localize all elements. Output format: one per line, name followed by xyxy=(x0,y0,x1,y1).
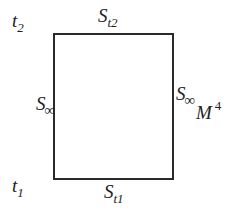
boundary-label-bottom-base: S xyxy=(104,181,114,202)
time-label-t1-subscript: 1 xyxy=(17,185,24,200)
boundary-label-left: S∞ xyxy=(36,94,55,113)
boundary-label-right: S∞ xyxy=(176,84,195,103)
infinity-subscript-left: ∞ xyxy=(45,102,56,118)
boundary-label-top-base: S xyxy=(98,5,108,26)
boundary-label-bottom-subscript: t1 xyxy=(114,191,124,206)
boundary-label-top-subscript: t2 xyxy=(108,15,118,30)
spacetime-diagram: t2 t1 St2 St1 S∞ S∞ M4 xyxy=(0,0,238,217)
time-label-t2: t2 xyxy=(12,11,24,30)
boundary-label-bottom: St1 xyxy=(104,182,124,201)
manifold-label: M4 xyxy=(196,103,221,122)
boundary-label-top: St2 xyxy=(98,6,118,25)
infinity-subscript-right: ∞ xyxy=(185,92,196,108)
manifold-label-superscript: 4 xyxy=(215,98,222,113)
spacetime-region-rectangle xyxy=(53,33,174,180)
manifold-label-base: M xyxy=(196,102,212,123)
time-label-t1: t1 xyxy=(12,176,24,195)
time-label-t2-subscript: 2 xyxy=(17,20,24,35)
